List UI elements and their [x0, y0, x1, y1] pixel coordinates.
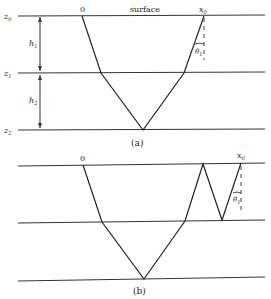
origin-label-a: 0 [80, 5, 85, 14]
caption-b: (b) [133, 286, 146, 296]
interface-top-b [18, 163, 265, 166]
caption-a: (a) [131, 138, 143, 148]
ray-path-diagram: z0 z1 z2 h1 h2 0 surface x0 θ1 (a) 0 x0 … [0, 0, 271, 299]
label-h2: h2 [29, 96, 37, 106]
receiver-label-a: x0 [199, 5, 208, 15]
angle-label-a: θ1 [195, 48, 202, 57]
angle-arc-b [233, 192, 241, 193]
surface-label: surface [130, 5, 160, 14]
interface-z1 [18, 72, 265, 73]
interface-z0 [18, 15, 265, 16]
angle-arc-a [195, 43, 204, 44]
interface-bottom-b [18, 277, 265, 281]
receiver-label-b: x0 [237, 151, 246, 161]
label-z2: z2 [3, 126, 11, 136]
interface-z2 [18, 129, 265, 130]
label-h1: h1 [29, 39, 37, 49]
label-z0: z0 [3, 12, 12, 22]
label-z1: z1 [3, 69, 11, 79]
angle-label-b: θ1 [233, 196, 240, 205]
interface-mid-b [18, 220, 265, 223]
origin-label-b: 0 [80, 154, 85, 163]
